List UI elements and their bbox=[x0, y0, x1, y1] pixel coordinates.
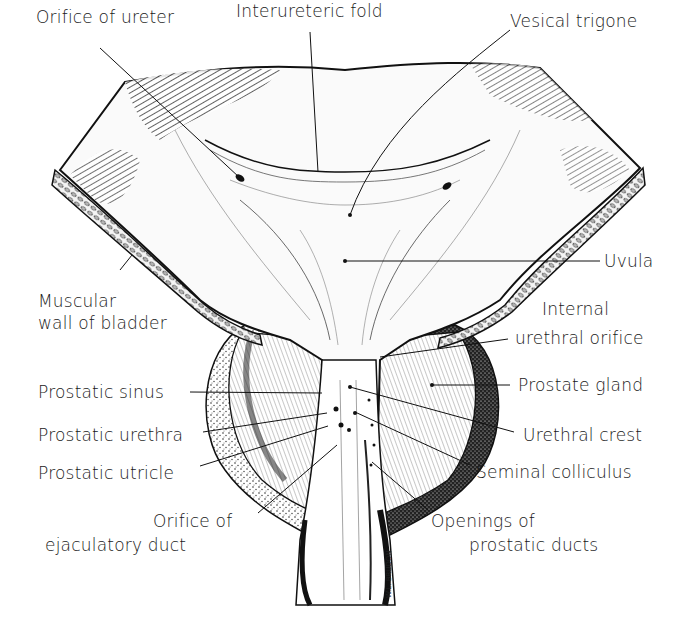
label-muscular-wall-line2: wall of bladder bbox=[38, 312, 167, 334]
label-internal-urethral-orifice-line1: Internal bbox=[542, 298, 609, 320]
label-orifice-ejaculatory-duct-line1: Orifice of bbox=[153, 510, 232, 532]
label-seminal-colliculus: Seminal colliculus bbox=[476, 461, 632, 483]
label-prostatic-utricle: Prostatic utricle bbox=[38, 462, 174, 484]
label-urethral-crest: Urethral crest bbox=[523, 424, 642, 446]
label-orifice-ejaculatory-duct-line2: ejaculatory duct bbox=[45, 534, 186, 556]
label-muscular-wall-line1: Muscular bbox=[38, 290, 116, 312]
anatomy-diagram: Orifice of ureter Interureteric fold Ves… bbox=[0, 0, 688, 618]
label-vesical-trigone: Vesical trigone bbox=[510, 10, 637, 32]
label-interureteric-fold: Interureteric fold bbox=[236, 0, 383, 22]
label-prostatic-sinus: Prostatic sinus bbox=[38, 381, 164, 403]
label-orifice-of-ureter: Orifice of ureter bbox=[36, 6, 174, 28]
label-prostatic-urethra: Prostatic urethra bbox=[38, 424, 183, 446]
label-openings-prostatic-ducts-line2: prostatic ducts bbox=[469, 534, 598, 556]
label-internal-urethral-orifice-line2: urethral orifice bbox=[515, 327, 644, 349]
label-uvula: Uvula bbox=[604, 250, 653, 272]
artist-signature: W.L. BRUDON bbox=[385, 550, 393, 598]
label-openings-prostatic-ducts-line1: Openings of bbox=[431, 510, 535, 532]
label-prostate-gland: Prostate gland bbox=[518, 374, 643, 396]
